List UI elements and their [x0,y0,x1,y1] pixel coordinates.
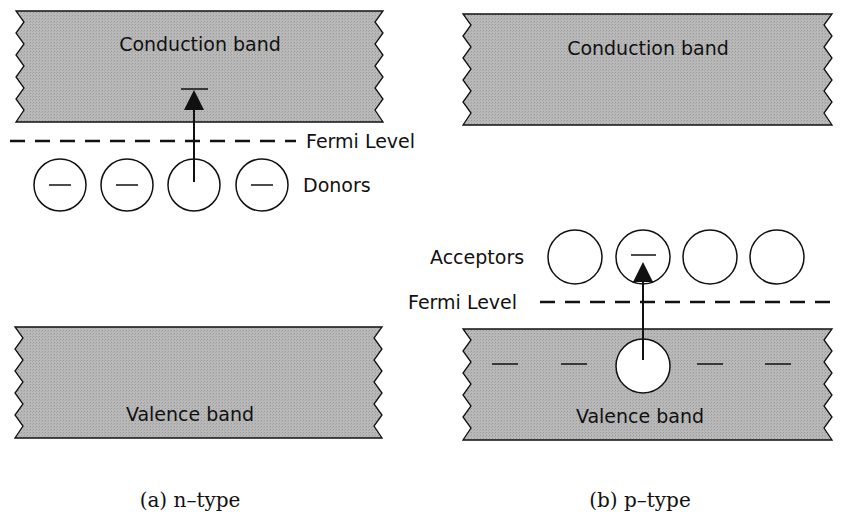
panel-n-type: Conduction band Fermi Level Donors Valen… [10,11,415,512]
fermi-level-label-a: Fermi Level [306,130,415,152]
band-diagram: Conduction band Fermi Level Donors Valen… [0,0,846,527]
caption-a: (a) n–type [140,488,241,512]
panel-p-type: Conduction band Acceptors Fermi Level Va… [408,14,832,512]
donor-atoms [34,159,288,211]
caption-b: (b) p–type [589,488,691,512]
acceptors-label: Acceptors [430,246,524,268]
valence-band-label-b: Valence band [576,405,704,427]
conduction-band-label-a: Conduction band [119,33,281,55]
fermi-level-label-b: Fermi Level [408,291,517,313]
donors-label: Donors [303,174,371,196]
acceptor-atoms [548,230,804,284]
conduction-band-b [463,14,832,125]
conduction-band-a [16,11,383,122]
valence-band-label-a: Valence band [126,403,254,425]
conduction-band-label-b: Conduction band [567,37,729,59]
